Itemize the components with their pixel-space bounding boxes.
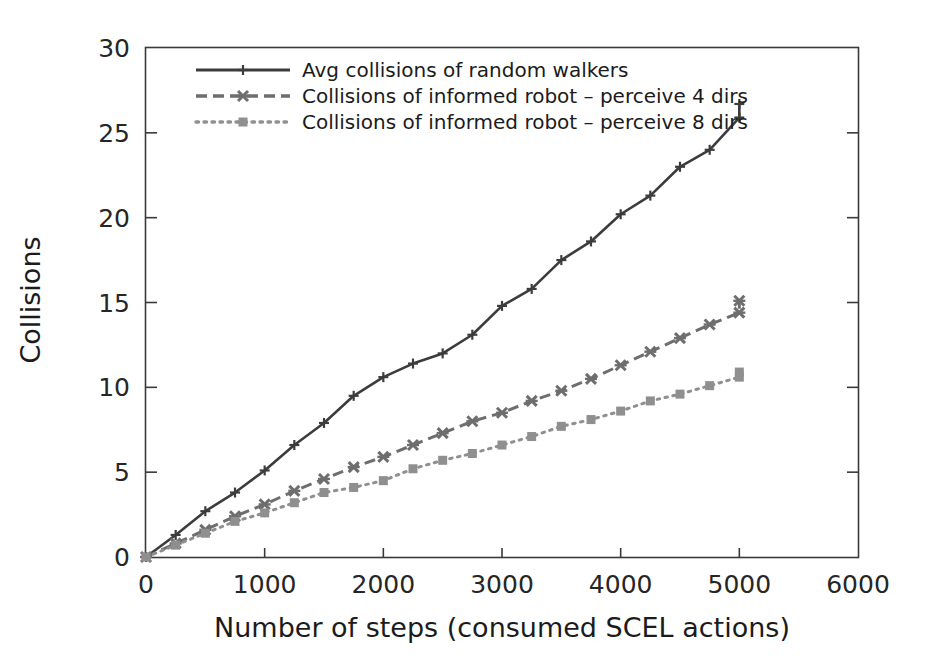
data-point-marker — [646, 396, 655, 405]
data-point-marker — [290, 498, 299, 507]
x-axis-title: Number of steps (consumed SCEL actions) — [214, 612, 790, 643]
y-tick-label: 10 — [98, 373, 130, 402]
x-tick-label: 4000 — [589, 570, 653, 599]
x-tick-label: 3000 — [470, 570, 534, 599]
legend-label: Collisions of informed robot – perceive … — [302, 84, 748, 108]
data-point-marker — [438, 456, 447, 465]
data-point-marker — [468, 449, 477, 458]
y-tick-label: 25 — [98, 119, 130, 148]
data-point-marker — [676, 390, 685, 399]
y-tick-label: 15 — [98, 289, 130, 318]
data-point-marker — [239, 118, 248, 127]
data-point-marker — [527, 432, 536, 441]
data-point-marker — [587, 415, 596, 424]
data-point-marker — [498, 441, 507, 450]
y-tick-label: 30 — [98, 34, 130, 63]
x-tick-label: 2000 — [352, 570, 416, 599]
line-chart-canvas: 0100020003000400050006000 051015202530 N… — [0, 0, 930, 659]
data-point-marker — [201, 529, 210, 538]
data-point-marker — [231, 517, 240, 526]
data-point-marker — [705, 381, 714, 390]
x-tick-label: 0 — [138, 570, 154, 599]
x-tick-label: 5000 — [708, 570, 772, 599]
data-point-marker — [320, 488, 329, 497]
y-tick-label: 0 — [114, 543, 130, 572]
legend-label: Avg collisions of random walkers — [302, 58, 629, 82]
data-point-marker — [260, 508, 269, 517]
legend-label: Collisions of informed robot – perceive … — [302, 110, 748, 134]
data-point-marker — [379, 476, 388, 485]
data-point-marker — [557, 422, 566, 431]
y-tick-label: 20 — [98, 204, 130, 233]
data-point-marker — [409, 464, 418, 473]
y-tick-label: 5 — [114, 458, 130, 487]
chart-figure: 0100020003000400050006000 051015202530 N… — [0, 0, 930, 659]
data-point-marker — [171, 541, 180, 550]
data-point-marker — [616, 407, 625, 416]
data-point-marker — [142, 553, 151, 562]
data-point-marker — [735, 368, 744, 377]
data-point-marker — [349, 483, 358, 492]
x-tick-label: 6000 — [826, 570, 890, 599]
x-tick-label: 1000 — [233, 570, 297, 599]
y-axis-title: Collisions — [15, 236, 46, 363]
